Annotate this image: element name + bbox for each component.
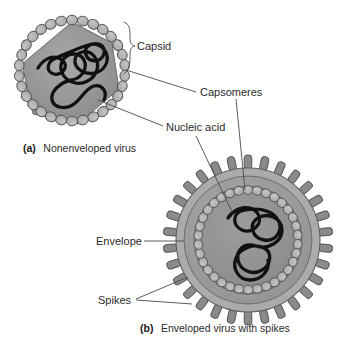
capsomere-bead [14,70,25,82]
figure-canvas: Capsid Capsomeres Nucleic acid Envelope … [0,0,349,342]
enveloped-virus [163,155,333,325]
label-envelope: Envelope [96,235,142,247]
capsomere-bead [293,230,303,241]
label-capsid: Capsid [137,40,171,52]
spike [163,244,178,253]
caption-a-marker: (a) [23,142,36,154]
spikes-leader-upper [136,277,188,299]
capsomere-bead [293,239,303,250]
spike [244,155,252,169]
capsomere-bead [243,285,253,294]
capsomere-bead [66,15,77,25]
spikes-leader-lower [136,300,192,304]
caption-a-text: Nonenveloped virus [43,142,136,154]
caption-b-marker: (b) [140,322,153,334]
spike [318,227,333,236]
caption-b-text: Enveloped virus with spikes [161,322,290,334]
label-spikes: Spikes [98,294,132,306]
capsomere-bead [66,116,77,126]
label-capsomeres: Capsomeres [200,86,263,98]
virus-structure-figure: Capsid Capsomeres Nucleic acid Envelope … [0,0,349,342]
capsomere-bead [194,239,204,250]
nonenveloped-virus [14,15,130,126]
caption-a: (a) Nonenveloped virus [23,138,136,155]
spike [318,244,333,253]
label-nucleic-acid: Nucleic acid [166,121,225,133]
capsomere-bead [119,70,130,82]
capsomeres-leader-a [126,70,196,92]
capsomere-bead [55,15,68,27]
spike [163,227,178,236]
